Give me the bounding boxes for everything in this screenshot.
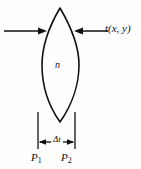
refractive-index-label: n [55, 60, 60, 70]
plane-p1-label-subscript: 1 [38, 156, 42, 165]
plane-p1-label: P1 [31, 152, 42, 165]
delta-t-label: Δt [53, 135, 61, 144]
lens-thickness-diagram: t(x, y) n Δt P1 P2 [0, 0, 141, 169]
lens-outline [42, 8, 79, 122]
delta-t-arrowhead-right-icon [67, 139, 75, 145]
left-ray-arrowhead-icon [38, 27, 47, 34]
thickness-function-label: t(x, y) [105, 23, 131, 34]
plane-p2-label-subscript: 2 [68, 156, 72, 165]
plane-p1-label-base: P [31, 151, 38, 163]
delta-t-arrowhead-left-icon [39, 139, 47, 145]
plane-p2-label: P2 [61, 152, 72, 165]
right-ray-arrowhead-icon [74, 27, 83, 34]
plane-p2-label-base: P [61, 151, 68, 163]
